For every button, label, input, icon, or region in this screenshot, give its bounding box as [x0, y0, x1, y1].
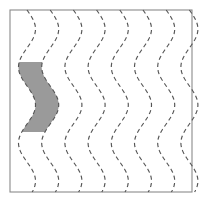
figure-background — [0, 0, 201, 203]
figure-container — [0, 0, 201, 203]
wave-diagram-svg — [0, 0, 201, 203]
